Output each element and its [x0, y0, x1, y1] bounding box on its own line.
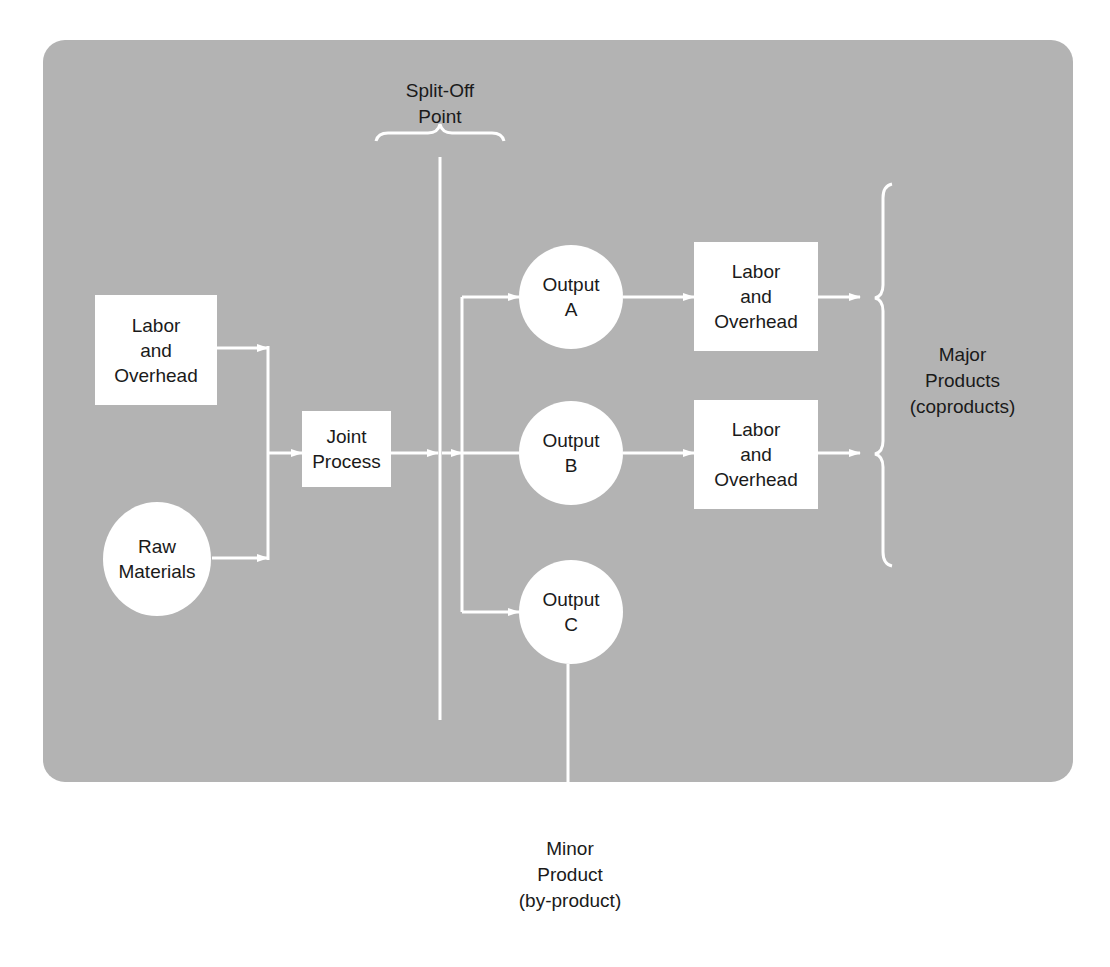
labor-overhead-input-box: Labor and Overhead [95, 295, 217, 405]
minor-product-label: Minor Product (by-product) [500, 836, 640, 914]
node-text: Labor [132, 313, 181, 338]
output-b-node: Output B [519, 401, 623, 505]
label-line: Minor [546, 836, 594, 862]
output-c-node: Output C [519, 560, 623, 664]
joint-process-box: Joint Process [302, 411, 391, 487]
major-products-brace [875, 184, 892, 566]
minor-product-brace [490, 814, 650, 830]
node-text: Overhead [714, 309, 797, 334]
node-text: Output [542, 272, 599, 297]
node-text: A [565, 297, 578, 322]
node-text: and [140, 338, 172, 363]
node-text: Labor [732, 417, 781, 442]
label-line: (by-product) [519, 888, 621, 914]
raw-materials-node: Raw Materials [103, 502, 211, 616]
major-products-label: Major Products (coproducts) [895, 342, 1030, 420]
labor-overhead-b-box: Labor and Overhead [694, 400, 818, 509]
label-line: Major [939, 342, 987, 368]
node-text: Overhead [714, 467, 797, 492]
split-off-point-label: Split-Off Point [380, 78, 500, 130]
node-text: Overhead [114, 363, 197, 388]
output-a-node: Output A [519, 245, 623, 349]
node-text: Joint [326, 424, 366, 449]
node-text: Materials [118, 559, 195, 584]
node-text: and [740, 284, 772, 309]
label-line: (coproducts) [910, 394, 1016, 420]
label-line: Products [925, 368, 1000, 394]
node-text: B [565, 453, 578, 478]
split-off-line-1: Split-Off [406, 78, 474, 104]
split-off-line-2: Point [418, 104, 461, 130]
node-text: Raw [138, 534, 176, 559]
label-line: Product [537, 862, 602, 888]
labor-overhead-a-box: Labor and Overhead [694, 242, 818, 351]
node-text: and [740, 442, 772, 467]
node-text: Output [542, 428, 599, 453]
node-text: C [564, 612, 578, 637]
node-text: Process [312, 449, 381, 474]
joint-process-diagram: Split-Off Point Labor and Overhead Raw M… [0, 0, 1110, 967]
node-text: Output [542, 587, 599, 612]
node-text: Labor [732, 259, 781, 284]
